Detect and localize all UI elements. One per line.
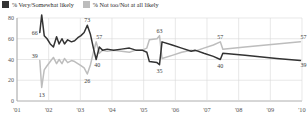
plot-svg: 020406080'01'02'03'04'05'06'07'08'09'108… — [0, 13, 308, 132]
series-line-not-too-not-at-all-likely — [40, 36, 301, 88]
line-chart: % Very/Somewhat likely % Not too/Not at … — [0, 0, 308, 132]
x-axis-tick-label: '09 — [267, 106, 275, 113]
x-axis-tick-label: '07 — [203, 106, 211, 113]
legend-label: % Not too/Not at all likely — [93, 1, 159, 8]
data-point-label: 57 — [217, 34, 223, 40]
y-axis-tick-label: 0 — [11, 98, 14, 104]
data-point-label: 40 — [217, 63, 223, 69]
data-point-label: 73 — [84, 17, 90, 23]
x-axis-tick-label: '08 — [235, 106, 243, 113]
x-axis-tick-label: '05 — [140, 106, 148, 113]
data-point-label: 26 — [84, 78, 90, 84]
y-axis-tick-label: 40 — [8, 57, 14, 63]
series-line-very-somewhat-likely — [40, 15, 301, 65]
data-point-label: 13 — [39, 92, 45, 98]
square-swatch-dark-icon — [2, 1, 9, 8]
data-point-label: 35 — [157, 68, 163, 74]
x-axis-tick-label: '03 — [77, 106, 85, 113]
x-axis-tick-label: '04 — [108, 106, 116, 113]
y-axis-tick-label: 20 — [8, 77, 14, 83]
data-point-label: 39 — [32, 53, 38, 59]
data-point-label: 40 — [94, 62, 100, 68]
legend-item-very-somewhat-likely: % Very/Somewhat likely — [2, 1, 74, 8]
legend-label: % Very/Somewhat likely — [12, 1, 74, 8]
legend-item-not-too-not-at-all-likely: % Not too/Not at all likely — [83, 1, 159, 8]
x-axis-tick-label: '02 — [45, 106, 53, 113]
x-axis-tick-label: '10 — [298, 106, 306, 113]
chart-legend: % Very/Somewhat likely % Not too/Not at … — [2, 1, 159, 8]
data-point-label: 57 — [96, 34, 102, 40]
y-axis-tick-label: 80 — [8, 15, 14, 21]
data-point-label: 39 — [300, 62, 306, 68]
data-point-label: 63 — [157, 28, 163, 34]
y-axis-tick-label: 60 — [8, 36, 14, 42]
x-axis-tick-label: '06 — [172, 106, 180, 113]
data-point-label: 66 — [32, 30, 38, 36]
data-point-label: 57 — [300, 34, 306, 40]
x-axis-tick-label: '01 — [13, 106, 21, 113]
plot-area: 020406080'01'02'03'04'05'06'07'08'09'108… — [0, 13, 308, 132]
square-swatch-gray-icon — [83, 1, 90, 8]
